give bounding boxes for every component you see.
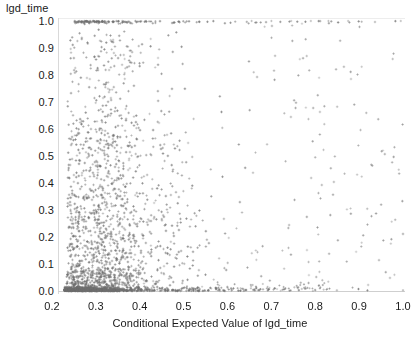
y-tick-label: 0.2 <box>2 231 54 243</box>
y-tick-label: 1.0 <box>2 15 54 27</box>
plot-frame-left-axis <box>58 18 59 294</box>
x-tick-label: 0.3 <box>88 300 104 312</box>
y-tick-label: 0.9 <box>2 42 54 54</box>
y-tick-label: 0.7 <box>2 96 54 108</box>
x-tick-label: 0.7 <box>264 300 280 312</box>
x-tick-label: 0.9 <box>351 300 367 312</box>
x-tick-label: 0.6 <box>220 300 236 312</box>
y-tick-label: 0.8 <box>2 69 54 81</box>
y-tick-label: 0.4 <box>2 177 54 189</box>
y-tick-label: 0.6 <box>2 123 54 135</box>
x-tick-label: 0.8 <box>307 300 323 312</box>
x-tick-label: 0.2 <box>44 300 60 312</box>
x-tick-label: 0.5 <box>176 300 192 312</box>
x-axis-title: Conditional Expected Value of lgd_time <box>0 317 420 329</box>
y-tick-label: 0.1 <box>2 258 54 270</box>
x-tick-label: 0.4 <box>132 300 148 312</box>
scatter-plot-figure: lgd_time 0.00.10.20.30.40.50.60.70.80.91… <box>0 0 420 338</box>
y-tick-label: 0.0 <box>2 285 54 297</box>
plot-frame-bottom-axis <box>58 291 405 292</box>
y-tick-label: 0.3 <box>2 204 54 216</box>
y-tick-label: 0.5 <box>2 150 54 162</box>
y-axis-tick-labels: 0.00.10.20.30.40.50.60.70.80.91.0 <box>0 0 54 338</box>
x-tick-label: 1.0 <box>395 300 411 312</box>
plot-frame-top-border <box>58 18 405 19</box>
scatter-points-layer <box>0 0 420 338</box>
